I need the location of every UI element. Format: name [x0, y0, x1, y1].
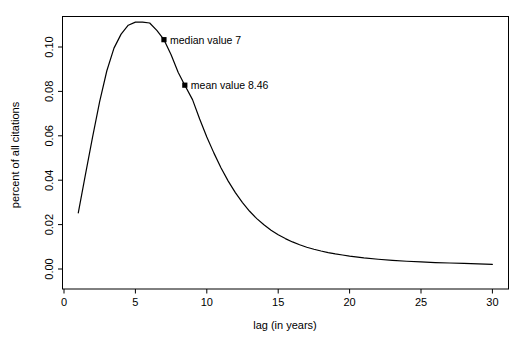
- y-tick-label-3: 0.06: [43, 125, 55, 146]
- median-marker: [161, 37, 166, 42]
- x-tick-label-4: 20: [343, 296, 355, 308]
- citation-lag-curve: [78, 22, 492, 264]
- x-tick-label-1: 5: [132, 296, 138, 308]
- y-tick-label-0: 0.00: [43, 258, 55, 279]
- y-tick-label-1: 0.02: [43, 214, 55, 235]
- x-tick-label-2: 10: [201, 296, 213, 308]
- plot-frame: [63, 17, 509, 290]
- annotation-layer: median value 7mean value 8.46: [161, 34, 268, 92]
- median-annotation-label: median value 7: [170, 34, 241, 46]
- y-tick-label-2: 0.04: [43, 169, 55, 190]
- citation-lag-chart: 0.00 0.02 0.04 0.06 0.08 0.10 0 5 10 15 …: [0, 0, 528, 339]
- x-axis-ticks: [64, 289, 492, 294]
- y-axis-title: percent of all citations: [9, 101, 21, 208]
- mean-annotation-label: mean value 8.46: [191, 79, 269, 91]
- x-axis-title: lag (in years): [253, 319, 317, 331]
- mean-marker: [182, 83, 187, 88]
- x-tick-label-0: 0: [61, 296, 67, 308]
- y-axis-ticks: [58, 47, 63, 269]
- x-tick-label-5: 25: [415, 296, 427, 308]
- x-axis-tick-labels: 0 5 10 15 20 25 30: [61, 296, 499, 308]
- y-axis-tick-labels: 0.00 0.02 0.04 0.06 0.08 0.10: [43, 36, 55, 279]
- y-tick-label-4: 0.08: [43, 81, 55, 102]
- x-tick-label-3: 15: [272, 296, 284, 308]
- x-tick-label-6: 30: [486, 296, 498, 308]
- plot-canvas: 0.00 0.02 0.04 0.06 0.08 0.10 0 5 10 15 …: [0, 0, 528, 339]
- y-tick-label-5: 0.10: [43, 36, 55, 57]
